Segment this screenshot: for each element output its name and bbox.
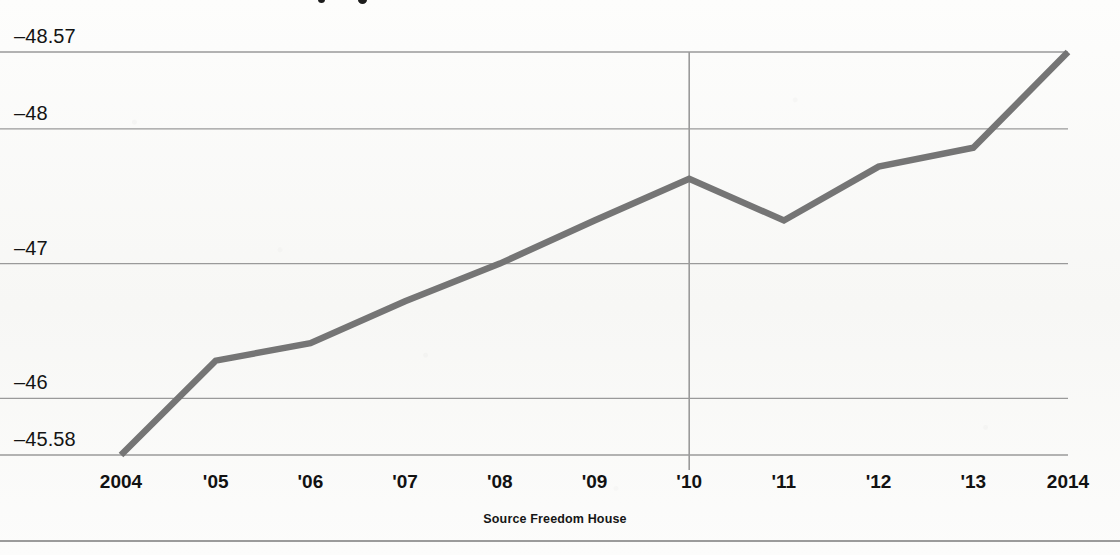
x-axis-tick-label: '09	[582, 472, 608, 491]
data-series-line	[121, 52, 1068, 455]
gridline-group	[0, 52, 1068, 455]
x-axis-tick-label: '05	[203, 472, 229, 491]
x-axis-tick-label: '11	[772, 472, 797, 491]
source-note: Source Freedom House	[483, 513, 626, 526]
y-axis-tick-label: –46	[14, 372, 48, 392]
y-axis-tick-label: –48	[14, 103, 48, 123]
y-axis-tick-label: –48.57	[14, 26, 76, 46]
y-axis-tick-label: –47	[14, 238, 48, 258]
x-axis-tick-label: '12	[866, 472, 892, 491]
x-axis-tick-label: 2014	[1047, 472, 1089, 491]
x-axis-tick-label: '06	[298, 472, 324, 491]
x-axis-tick-label: '08	[487, 472, 513, 491]
x-axis-tick-label: '07	[392, 472, 418, 491]
line-chart-figure: –45.58–46–47–48–48.57 2004'05'06'07'08'0…	[0, 0, 1120, 555]
x-axis-tick-label: '13	[960, 472, 986, 491]
x-axis-tick-label: '10	[676, 472, 702, 491]
x-axis-tick-label: 2004	[100, 472, 142, 491]
y-axis-tick-label: –45.58	[14, 429, 76, 449]
bottom-rule-divider	[0, 540, 1120, 542]
chart-plot-area	[0, 0, 1120, 555]
